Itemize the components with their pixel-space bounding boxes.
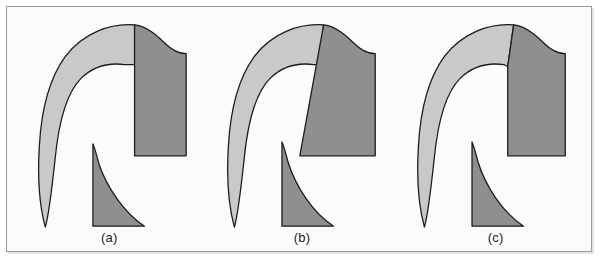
panel-c-diagram xyxy=(396,7,591,251)
panel-c: (c) xyxy=(396,7,591,251)
panel-b-label: (b) xyxy=(202,230,397,245)
panel-a-diagram xyxy=(7,7,202,251)
upper-block-dark-region xyxy=(135,25,187,156)
figure-frame: (a) (b) xyxy=(6,6,592,252)
panel-row: (a) (b) xyxy=(7,7,591,251)
upper-block-dark-region xyxy=(508,25,566,156)
panel-b: (b) xyxy=(202,7,397,251)
panel-b-diagram xyxy=(202,7,397,251)
panel-a: (a) xyxy=(7,7,202,251)
panel-a-label: (a) xyxy=(7,230,202,245)
upper-hook-light-region xyxy=(418,25,514,228)
upper-hook-light-region xyxy=(39,25,135,228)
figure-root: (a) (b) xyxy=(0,0,602,262)
panel-c-label: (c) xyxy=(396,230,591,245)
